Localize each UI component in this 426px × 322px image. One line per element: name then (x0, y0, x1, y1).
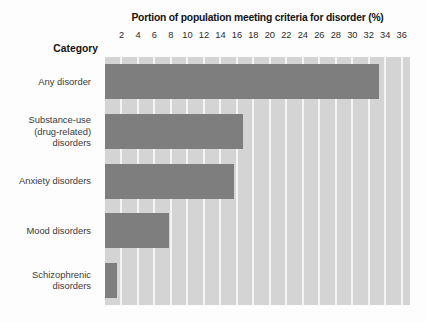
y-category-label-line: disorders (0, 137, 91, 148)
y-category-label-line: Anxiety disorders (0, 175, 91, 186)
y-category-label-line: (drug-related) (0, 126, 91, 137)
bar-chart: Portion of population meeting criteria f… (0, 0, 426, 322)
y-axis-category-labels: Any disorderSubstance-use(drug-related)d… (0, 57, 99, 305)
y-category-label-line: Mood disorders (0, 225, 91, 236)
y-category-label: Schizophrenicdisorders (0, 269, 99, 292)
gridline (384, 57, 386, 305)
plot-area (105, 57, 410, 305)
x-tick-label: 36 (392, 30, 412, 41)
bar (105, 263, 117, 298)
bar (105, 64, 379, 99)
bar (105, 164, 234, 199)
y-axis-title: Category (0, 43, 98, 55)
y-category-label-line: Any disorder (0, 76, 91, 87)
y-category-label: Any disorder (0, 76, 99, 87)
y-category-label-line: Schizophrenic (0, 269, 91, 280)
y-category-label: Mood disorders (0, 225, 99, 236)
gridline (401, 57, 403, 305)
bar (105, 114, 243, 149)
y-category-label-line: disorders (0, 280, 91, 291)
x-axis-tick-labels: 24681012141618202224262830323436 (105, 30, 410, 44)
y-category-label: Anxiety disorders (0, 175, 99, 186)
y-category-label-line: Substance-use (0, 114, 91, 125)
bar (105, 213, 169, 248)
chart-title: Portion of population meeting criteria f… (105, 12, 410, 24)
y-category-label: Substance-use(drug-related)disorders (0, 114, 99, 148)
